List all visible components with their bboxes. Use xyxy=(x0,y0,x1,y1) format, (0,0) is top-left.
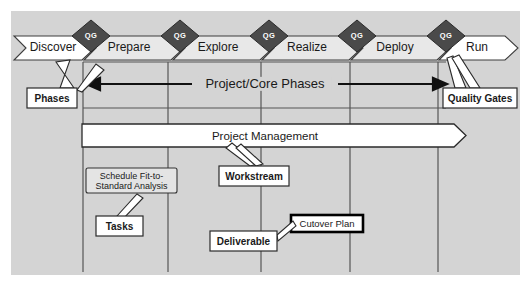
callout-label-workstream: Workstream xyxy=(225,171,283,182)
callout-label-quality-gates: Quality Gates xyxy=(448,93,512,104)
phase-label-realize: Realize xyxy=(287,41,327,54)
diagram-vector-layer xyxy=(0,0,532,290)
callout-leader-phases xyxy=(56,60,74,88)
quality-gate-label: QG xyxy=(440,32,452,40)
deliverable-box-label: Cutover Plan xyxy=(300,218,355,228)
callout-label-phases: Phases xyxy=(34,93,69,104)
quality-gate-label: QG xyxy=(263,32,275,40)
task-box-label: Schedule Fit-to-Standard Analysis xyxy=(87,170,176,191)
callout-label-tasks: Tasks xyxy=(106,221,134,232)
phase-label-deploy: Deploy xyxy=(376,41,413,54)
quality-gate-label: QG xyxy=(174,32,186,40)
phase-label-explore: Explore xyxy=(198,41,239,54)
callout-leader-tasks xyxy=(117,194,143,218)
phase-label-discover: Discover xyxy=(30,41,77,54)
phase-label-prepare: Prepare xyxy=(108,41,151,54)
quality-gate-label: QG xyxy=(85,32,97,40)
diagram-canvas: Discover Prepare Explore Realize Deploy … xyxy=(0,0,532,290)
callout-label-deliverable: Deliverable xyxy=(217,236,270,247)
core-phases-band-label: Project/Core Phases xyxy=(198,77,331,91)
phase-label-run: Run xyxy=(466,41,488,54)
workstream-bar-label: Project Management xyxy=(212,130,318,143)
quality-gate-label: QG xyxy=(351,32,363,40)
